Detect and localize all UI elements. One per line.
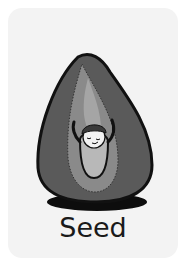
card-label: Seed [0, 212, 186, 243]
